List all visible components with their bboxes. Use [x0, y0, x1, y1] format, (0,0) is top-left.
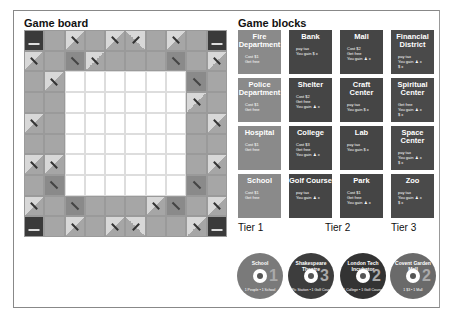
board-tile[interactable]	[186, 154, 206, 175]
board-tile[interactable]	[85, 30, 105, 51]
block-card[interactable]: SchoolCost $1Get free	[238, 174, 281, 218]
board-tile[interactable]	[207, 134, 227, 155]
board-empty-cell[interactable]	[166, 154, 186, 175]
board-tile[interactable]	[105, 51, 125, 72]
board-tile[interactable]	[186, 196, 206, 217]
board-tile[interactable]	[146, 196, 166, 217]
board-tile[interactable]	[207, 196, 227, 217]
board-tile[interactable]	[186, 92, 206, 113]
board-tile[interactable]	[44, 71, 64, 92]
block-card[interactable]: Craft Centerpay taxYou gain $ x	[340, 78, 383, 122]
board-empty-cell[interactable]	[146, 154, 166, 175]
board-tile[interactable]	[146, 30, 166, 51]
board-empty-cell[interactable]	[85, 154, 105, 175]
block-card[interactable]: Zoopay taxYou gain ♟ x$ x	[391, 174, 434, 218]
block-card[interactable]: Labpay taxYou gain $ x	[340, 126, 383, 170]
board-tile[interactable]	[207, 51, 227, 72]
board-empty-cell[interactable]	[166, 92, 186, 113]
board-tile[interactable]	[207, 113, 227, 134]
board-tile[interactable]	[65, 51, 85, 72]
block-card[interactable]: ShelterCost $2Get freeYou gain ♟ x	[289, 78, 332, 122]
board-tile[interactable]	[125, 216, 145, 237]
board-tile[interactable]	[65, 196, 85, 217]
block-card[interactable]: Bankpay taxYou gain $ x	[289, 30, 332, 74]
board-tile[interactable]	[207, 154, 227, 175]
board-tile[interactable]	[207, 175, 227, 196]
block-card[interactable]: Golf Coursepay taxYou gain ♟ x	[289, 174, 332, 218]
board-tile[interactable]	[44, 92, 64, 113]
board-tile[interactable]	[24, 113, 44, 134]
board-empty-cell[interactable]	[65, 92, 85, 113]
board-tile[interactable]	[166, 51, 186, 72]
board-tile[interactable]	[44, 51, 64, 72]
board-tile[interactable]	[24, 71, 44, 92]
board-empty-cell[interactable]	[65, 71, 85, 92]
board-tile[interactable]	[105, 196, 125, 217]
board-empty-cell[interactable]	[125, 71, 145, 92]
block-card[interactable]: Financial Districtpay taxYou gain ♟ x$ x	[391, 30, 434, 74]
board-tile[interactable]	[44, 154, 64, 175]
board-tile[interactable]	[24, 154, 44, 175]
board-tile[interactable]	[186, 134, 206, 155]
board-empty-cell[interactable]	[105, 113, 125, 134]
board-tile[interactable]	[44, 30, 64, 51]
board-empty-cell[interactable]	[65, 113, 85, 134]
board-tile[interactable]	[44, 216, 64, 237]
board-tile[interactable]	[105, 216, 125, 237]
board-corner-tile[interactable]	[24, 30, 44, 51]
board-tile[interactable]	[186, 71, 206, 92]
board-tile[interactable]	[186, 175, 206, 196]
board-empty-cell[interactable]	[85, 71, 105, 92]
board-tile[interactable]	[146, 216, 166, 237]
board-empty-cell[interactable]	[125, 92, 145, 113]
block-card[interactable]: Fire DepartmentCost $1Get free	[238, 30, 281, 74]
board-tile[interactable]	[186, 30, 206, 51]
board-tile[interactable]	[24, 134, 44, 155]
game-disc[interactable]: School 1 1 People • 1 School	[237, 253, 283, 299]
board-tile[interactable]	[166, 216, 186, 237]
board-empty-cell[interactable]	[85, 175, 105, 196]
block-card[interactable]: HospitalCost $1Get free	[238, 126, 281, 170]
block-card[interactable]: Space Centerpay taxYou gain ♟ x$ x	[391, 126, 434, 170]
board-tile[interactable]	[146, 51, 166, 72]
board-tile[interactable]	[24, 51, 44, 72]
board-empty-cell[interactable]	[105, 175, 125, 196]
board-tile[interactable]	[44, 134, 64, 155]
board-corner-tile[interactable]	[207, 216, 227, 237]
board-corner-tile[interactable]	[24, 216, 44, 237]
board-empty-cell[interactable]	[146, 92, 166, 113]
board-tile[interactable]	[105, 30, 125, 51]
game-disc[interactable]: Shakespeare Theatre 3 1 Pic Station • 1 …	[288, 253, 334, 299]
board-tile[interactable]	[186, 113, 206, 134]
board-tile[interactable]	[44, 113, 64, 134]
board-tile[interactable]	[207, 92, 227, 113]
board-empty-cell[interactable]	[85, 92, 105, 113]
board-tile[interactable]	[166, 196, 186, 217]
board-empty-cell[interactable]	[65, 175, 85, 196]
board-empty-cell[interactable]	[105, 71, 125, 92]
board-tile[interactable]	[125, 30, 145, 51]
board-empty-cell[interactable]	[125, 154, 145, 175]
board-empty-cell[interactable]	[146, 71, 166, 92]
board-tile[interactable]	[207, 71, 227, 92]
block-card[interactable]: MallCost $2Get freeYou gain ♟ x	[340, 30, 383, 74]
board-empty-cell[interactable]	[65, 154, 85, 175]
board-empty-cell[interactable]	[125, 175, 145, 196]
block-card[interactable]: ParkCost $1Get freeYou gain ♟ x	[340, 174, 383, 218]
block-card[interactable]: Spiritual CenterGet freeYou gain ♟ x$ x	[391, 78, 434, 122]
board-empty-cell[interactable]	[166, 134, 186, 155]
board-tile[interactable]	[186, 216, 206, 237]
board-empty-cell[interactable]	[125, 113, 145, 134]
board-empty-cell[interactable]	[146, 175, 166, 196]
board-tile[interactable]	[85, 51, 105, 72]
board-tile[interactable]	[24, 92, 44, 113]
board-empty-cell[interactable]	[125, 134, 145, 155]
board-tile[interactable]	[44, 175, 64, 196]
board-empty-cell[interactable]	[105, 134, 125, 155]
board-empty-cell[interactable]	[105, 92, 125, 113]
board-tile[interactable]	[24, 175, 44, 196]
board-tile[interactable]	[186, 51, 206, 72]
board-tile[interactable]	[85, 196, 105, 217]
board-empty-cell[interactable]	[166, 113, 186, 134]
board-tile[interactable]	[125, 196, 145, 217]
